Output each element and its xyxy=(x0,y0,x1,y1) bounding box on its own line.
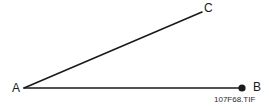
vertex-label-a: A xyxy=(12,82,20,94)
vertex-label-b: B xyxy=(253,81,261,93)
file-name-caption: 107F68.TIF xyxy=(214,96,255,104)
ray-ac-line xyxy=(24,12,202,88)
vertex-label-c: C xyxy=(204,2,213,14)
angle-diagram-canvas xyxy=(0,0,269,110)
angle-diagram-figure: A B C 107F68.TIF xyxy=(0,0,269,110)
point-b-dot-icon xyxy=(238,84,245,91)
